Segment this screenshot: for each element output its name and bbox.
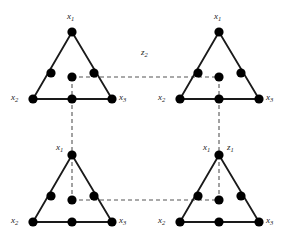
x2-subscript: 2 — [162, 219, 165, 226]
x2-subscript: 2 — [162, 96, 165, 103]
tr-node-bottom-center — [214, 94, 223, 103]
triangle-tr-x3-label: x3 — [266, 93, 273, 102]
triangle-tl-edges — [33, 32, 112, 99]
tr-node-apex — [214, 27, 223, 36]
x3-subscript: 3 — [270, 219, 273, 226]
tl-edge-right — [72, 32, 112, 99]
bl-node-left-mid — [46, 191, 55, 200]
triangle-tr-x2-label: x2 — [158, 93, 165, 102]
bl-node-bottom-left — [28, 217, 37, 226]
bl-node-apex — [67, 150, 76, 159]
bl-edge-left — [33, 155, 72, 222]
tr-node-left-mid — [193, 68, 202, 77]
tr-edge-left — [180, 32, 219, 99]
diagram-canvas — [0, 0, 291, 248]
tr-node-interior — [214, 72, 223, 81]
triangle-br-x3-label: x3 — [266, 216, 273, 225]
tl-node-bottom-left — [28, 94, 37, 103]
triangle-tr-edges — [180, 32, 259, 99]
lattice-diagram: x1 x2 x3 x1 x2 x3 x1 x2 x3 x1 x2 x3 z2 z… — [0, 0, 291, 248]
tr-edge-right — [219, 32, 259, 99]
br-edge-right — [219, 155, 259, 222]
x1-subscript: 1 — [207, 146, 210, 153]
tr-node-right-mid — [236, 68, 245, 77]
triangle-br-x2-label: x2 — [158, 216, 165, 225]
x2-subscript: 2 — [15, 96, 18, 103]
br-node-bottom-right — [254, 217, 263, 226]
x3-subscript: 3 — [123, 96, 126, 103]
triangle-tr-x1-label: x1 — [214, 12, 221, 21]
z1-label: z1 — [227, 143, 234, 152]
br-node-interior — [214, 195, 223, 204]
triangle-br-nodes — [175, 150, 263, 226]
tr-node-bottom-right — [254, 94, 263, 103]
z1-text: z — [227, 142, 231, 152]
br-node-right-mid — [236, 191, 245, 200]
x1-subscript: 1 — [71, 15, 74, 22]
triangle-bl-x1-label: x1 — [56, 143, 63, 152]
tl-node-apex — [67, 27, 76, 36]
z2-text: z — [141, 47, 145, 57]
x3-subscript: 3 — [123, 219, 126, 226]
bl-edge-right — [72, 155, 112, 222]
triangle-tl-x3-label: x3 — [119, 93, 126, 102]
dashed-links-group — [72, 77, 219, 200]
tl-edge-left — [33, 32, 72, 99]
z2-label: z2 — [141, 48, 148, 57]
br-node-left-mid — [193, 191, 202, 200]
triangle-tl-x1-label: x1 — [67, 12, 74, 21]
tl-node-right-mid — [89, 68, 98, 77]
bl-node-right-mid — [89, 191, 98, 200]
triangle-bottom-right — [175, 150, 263, 226]
x1-subscript: 1 — [218, 15, 221, 22]
tl-node-interior — [67, 72, 76, 81]
triangle-bl-x2-label: x2 — [11, 216, 18, 225]
z2-subscript: 2 — [145, 51, 148, 58]
br-node-bottom-left — [175, 217, 184, 226]
triangle-tl-x2-label: x2 — [11, 93, 18, 102]
tl-node-left-mid — [46, 68, 55, 77]
triangle-bl-nodes — [28, 150, 116, 226]
br-node-bottom-center — [214, 217, 223, 226]
bl-node-interior — [67, 195, 76, 204]
bl-node-bottom-right — [107, 217, 116, 226]
tl-node-bottom-right — [107, 94, 116, 103]
tr-node-bottom-left — [175, 94, 184, 103]
triangle-bottom-left — [28, 150, 116, 226]
x2-subscript: 2 — [15, 219, 18, 226]
br-edge-left — [180, 155, 219, 222]
br-node-apex — [214, 150, 223, 159]
bl-node-bottom-center — [67, 217, 76, 226]
z1-subscript: 1 — [231, 146, 234, 153]
x3-subscript: 3 — [270, 96, 273, 103]
triangle-bl-x3-label: x3 — [119, 216, 126, 225]
tl-node-bottom-center — [67, 94, 76, 103]
triangle-br-x1-label: x1 — [203, 143, 210, 152]
x1-subscript: 1 — [60, 146, 63, 153]
